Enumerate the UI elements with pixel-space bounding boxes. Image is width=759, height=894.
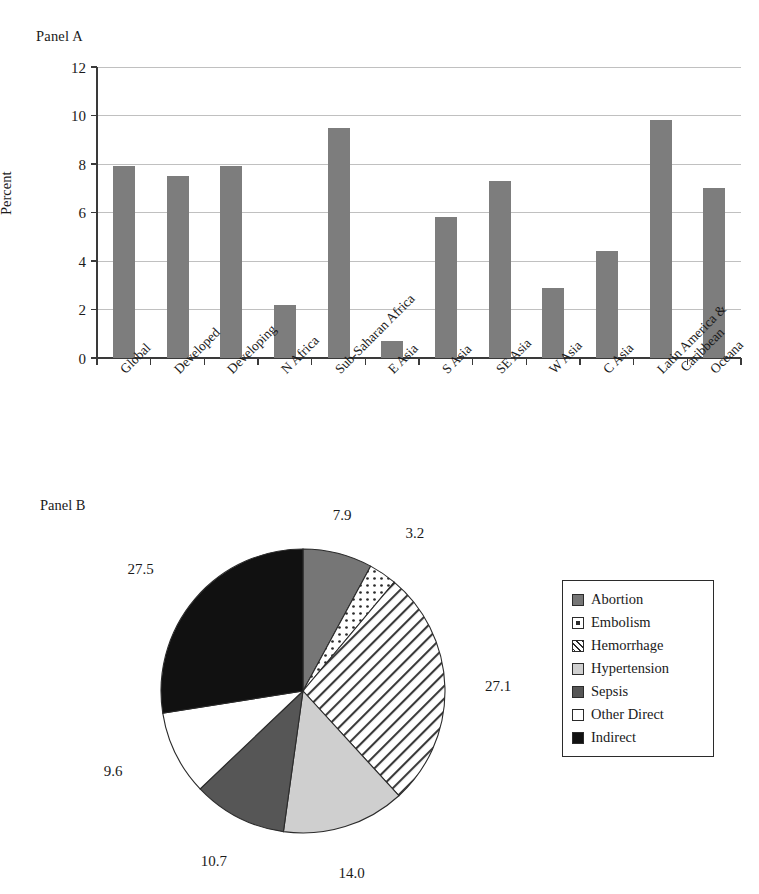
legend-label: Other Direct xyxy=(591,706,664,723)
bar xyxy=(435,217,457,358)
legend-label: Abortion xyxy=(591,591,643,608)
legend-label: Embolism xyxy=(591,614,651,631)
legend-swatch-sepsis-icon xyxy=(572,686,584,698)
legend-item-sepsis: Sepsis xyxy=(572,680,705,703)
pie-legend: AbortionEmbolismHemorrhageHypertensionSe… xyxy=(562,580,714,757)
legend-label: Hemorrhage xyxy=(591,637,663,654)
legend-swatch-indirect-icon xyxy=(572,732,584,744)
x-axis-tick-labels: GlobalDevelopedDevelopingN AfricaSub-Sah… xyxy=(0,362,759,492)
pie-slice-value-label: 7.9 xyxy=(333,507,352,524)
y-axis-tick-label: 10 xyxy=(71,108,86,124)
legend-swatch-other-direct-icon xyxy=(572,709,584,721)
y-axis-tick-label: 8 xyxy=(79,157,87,173)
legend-swatch-hemorrhage-icon xyxy=(572,640,584,652)
legend-item-hemorrhage: Hemorrhage xyxy=(572,634,705,657)
pie-slice-value-label: 10.7 xyxy=(201,853,227,870)
legend-item-abortion: Abortion xyxy=(572,588,705,611)
legend-swatch-embolism-icon xyxy=(572,617,584,629)
pie-slice-value-label: 9.6 xyxy=(104,763,123,780)
legend-swatch-abortion-icon xyxy=(572,594,584,606)
legend-swatch-hypertension-icon xyxy=(572,663,584,675)
pie-slice-value-label: 27.5 xyxy=(128,561,154,578)
bar xyxy=(542,288,564,358)
figure-caption xyxy=(36,876,736,894)
bar xyxy=(113,166,135,358)
y-axis-tick-label: 12 xyxy=(71,60,86,76)
legend-item-embolism: Embolism xyxy=(572,611,705,634)
y-axis-tick-label: 2 xyxy=(79,302,87,318)
bar xyxy=(650,120,672,358)
bar xyxy=(596,251,618,358)
bar xyxy=(489,181,511,358)
bar xyxy=(220,166,242,358)
bar xyxy=(328,128,350,358)
figure-page: Panel A 024681012 Percent GlobalDevelope… xyxy=(0,0,759,894)
legend-label: Hypertension xyxy=(591,660,669,677)
legend-label: Indirect xyxy=(591,729,636,746)
bar xyxy=(167,176,189,358)
pie-slice xyxy=(161,549,303,713)
y-axis-tick-label: 4 xyxy=(79,254,87,270)
legend-item-hypertension: Hypertension xyxy=(572,657,705,680)
y-axis-tick-label: 6 xyxy=(79,205,87,221)
pie-slice-value-label: 27.1 xyxy=(485,678,511,695)
panel-a-title: Panel A xyxy=(36,28,83,45)
legend-item-indirect: Indirect xyxy=(572,726,705,749)
legend-item-other-direct: Other Direct xyxy=(572,703,705,726)
pie-slice-value-label: 3.2 xyxy=(406,525,425,542)
legend-label: Sepsis xyxy=(591,683,628,700)
y-axis-label: Percent xyxy=(0,172,15,215)
